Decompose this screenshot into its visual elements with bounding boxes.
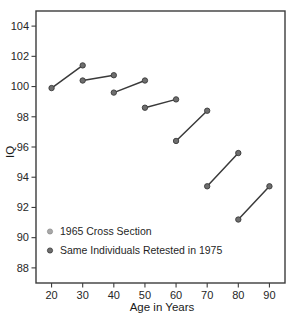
data-point-1965 (49, 85, 54, 90)
data-point-1975 (173, 97, 178, 102)
data-point-1965 (111, 90, 116, 95)
y-axis-title: IQ (4, 146, 16, 158)
legend-label-1965: 1965 Cross Section (60, 225, 152, 237)
y-tick-label: 90 (17, 231, 29, 243)
x-tick-label: 50 (139, 289, 151, 301)
x-tick-label: 20 (45, 289, 57, 301)
data-point-1965 (236, 217, 241, 222)
legend-marker-1965 (47, 229, 52, 234)
data-point-1975 (111, 73, 116, 78)
x-tick-label: 70 (201, 289, 213, 301)
data-point-1975 (204, 108, 209, 113)
y-tick-label: 96 (17, 141, 29, 153)
y-tick-label: 94 (17, 171, 29, 183)
y-tick-label: 88 (17, 262, 29, 274)
data-point-1965 (173, 138, 178, 143)
y-tick-label: 102 (11, 50, 29, 62)
y-tick-label: 98 (17, 111, 29, 123)
x-tick-label: 60 (170, 289, 182, 301)
data-point-1965 (142, 105, 147, 110)
y-tick-label: 104 (11, 20, 29, 32)
legend-label-1975: Same Individuals Retested in 1975 (60, 244, 222, 256)
data-point-1975 (142, 78, 147, 83)
data-point-1965 (204, 184, 209, 189)
y-tick-label: 92 (17, 201, 29, 213)
chart-background (0, 0, 297, 318)
iq-by-age-line-chart: 889092949698100102104 2030405060708090 I… (0, 0, 297, 318)
chart-figure: 889092949698100102104 2030405060708090 I… (0, 0, 297, 318)
data-point-1975 (236, 150, 241, 155)
legend-marker-1975 (47, 248, 52, 253)
x-tick-label: 40 (108, 289, 120, 301)
x-axis-title: Age in Years (130, 301, 195, 313)
x-tick-label: 80 (232, 289, 244, 301)
data-point-1965 (80, 78, 85, 83)
data-point-1975 (267, 184, 272, 189)
x-tick-label: 90 (263, 289, 275, 301)
y-tick-label: 100 (11, 80, 29, 92)
x-tick-label: 30 (77, 289, 89, 301)
data-point-1975 (80, 63, 85, 68)
